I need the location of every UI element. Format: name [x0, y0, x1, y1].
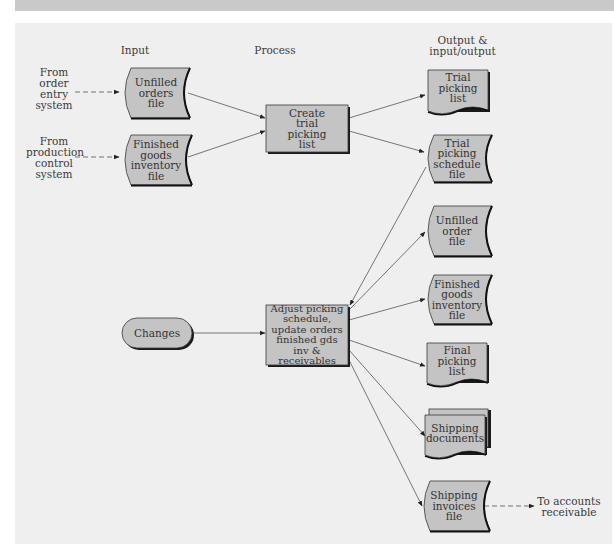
arrow-adjust-to-final-list	[349, 340, 425, 366]
source-order-entry-system: From order entry system	[28, 67, 80, 111]
arrow-adjust-to-finished-goods	[349, 299, 425, 320]
arrow-adjust-to-shipping-docs	[349, 350, 425, 436]
shipping-documents-label: Shipping documents	[425, 415, 485, 451]
finished-goods-inventory-file-label: Finished goods inventory file	[125, 135, 187, 185]
arrow-finished-to-create	[188, 131, 265, 157]
column-header-output: Output & input/output	[425, 35, 500, 57]
arrow-schedule-to-adjust	[350, 167, 426, 305]
arrow-create-to-schedule	[349, 131, 424, 152]
unfilled-orders-file-label: Unfilled orders file	[125, 68, 187, 118]
create-trial-picking-list-label: Create trial picking list	[266, 105, 348, 152]
final-picking-list-label: Final picking list	[427, 343, 487, 379]
column-header-process: Process	[245, 45, 305, 56]
source-production-control-system: From production control system	[26, 136, 82, 180]
arrow-unfilled-to-create	[188, 93, 265, 118]
trial-picking-list-label: Trial picking list	[428, 70, 488, 106]
arrow-adjust-to-unfilled-order	[349, 232, 425, 310]
flowchart-canvas	[0, 0, 614, 559]
arrow-create-to-trial-list	[349, 95, 425, 118]
arrow-adjust-to-invoices	[349, 360, 422, 506]
shipping-invoices-file-label: Shipping invoices file	[426, 481, 482, 531]
destination-accounts-receivable: To accounts receivable	[536, 496, 602, 518]
changes-label: Changes	[122, 318, 192, 348]
unfilled-order-file-label: Unfilled order file	[428, 206, 486, 256]
adjust-picking-schedule-label: Adjust picking schedule, update orders f…	[266, 305, 348, 365]
finished-goods-inventory-output-label: Finished goods inventory file	[424, 275, 490, 324]
trial-picking-schedule-file-label: Trial picking schedule file	[428, 135, 486, 182]
column-header-input: Input	[115, 45, 155, 56]
